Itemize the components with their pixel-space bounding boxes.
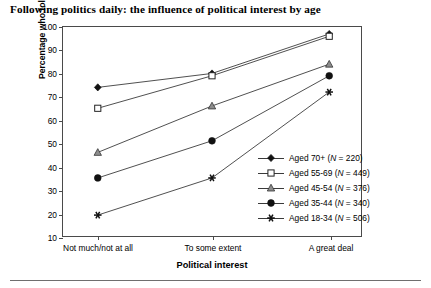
data-point-filled-circle [209,137,216,144]
x-tick-label: Not much/not at all [63,243,133,253]
series-line [98,34,329,87]
data-point-open-square [268,170,274,176]
legend-label: Aged 70+ (N = 220) [289,153,363,163]
data-point-filled-circle [268,200,275,207]
legend-marker-filled-circle-icon [258,197,284,209]
data-point-open-square [95,105,101,111]
data-point-filled-diamond [268,154,275,161]
data-point-shaded-triangle [94,149,101,156]
figure-container: Following politics daily: the influence … [0,0,431,288]
legend-item[interactable]: Aged 45-54 (N = 376) [258,180,370,195]
legend-marker-open-square-icon [258,167,284,179]
data-point-open-square [326,33,332,39]
y-tick-mark [59,238,63,239]
data-point-open-square [209,73,215,79]
data-point-shaded-triangle [326,60,333,67]
legend-label: Aged 45-54 (N = 376) [289,183,370,193]
legend-marker-shaded-triangle-icon [258,182,284,194]
legend-label: Aged 18-34 (N = 506) [289,213,370,223]
legend-marker-asterisk-icon [258,212,284,224]
x-tick-mark [98,236,99,240]
legend-item[interactable]: Aged 70+ (N = 220) [258,150,370,165]
legend-label: Aged 35-44 (N = 340) [289,198,370,208]
legend-item[interactable]: Aged 35-44 (N = 340) [258,196,370,211]
x-tick-label: A great deal [309,243,354,253]
data-point-asterisk [267,215,275,222]
legend-label: Aged 55-69 (N = 449) [289,168,370,178]
chart-title: Following politics daily: the influence … [10,3,321,15]
data-point-shaded-triangle [267,184,274,191]
data-point-shaded-triangle [208,102,215,109]
data-point-asterisk [94,212,102,219]
y-axis-title: Percentage who follow politics daily [37,0,47,79]
legend-item[interactable]: Aged 55-69 (N = 449) [258,165,370,180]
data-point-filled-circle [94,175,101,182]
bottom-divider [10,280,421,281]
x-tick-mark [213,236,214,240]
data-point-filled-diamond [94,84,101,91]
legend-marker-filled-diamond-icon [258,152,284,164]
data-point-filled-circle [326,72,333,79]
x-tick-mark [331,236,332,240]
x-tick-label: To some extent [185,243,242,253]
chart-legend: Aged 70+ (N = 220)Aged 55-69 (N = 449)Ag… [258,150,370,226]
x-axis-title: Political interest [63,260,361,270]
legend-item[interactable]: Aged 18-34 (N = 506) [258,211,370,226]
